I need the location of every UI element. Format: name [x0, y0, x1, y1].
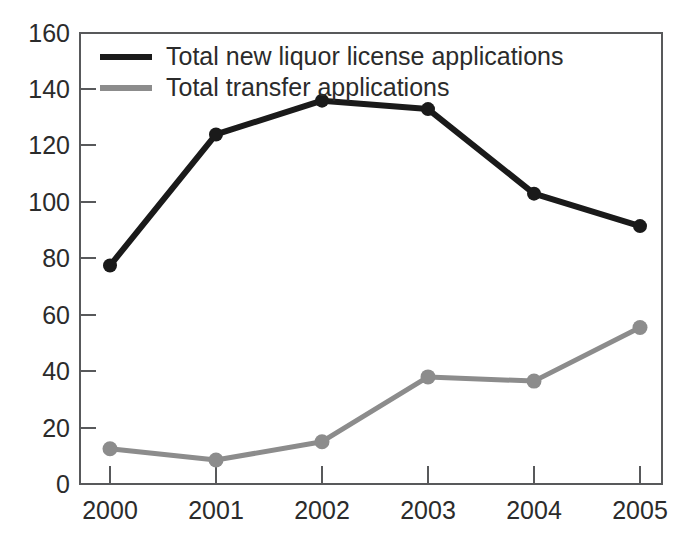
data-point	[633, 219, 647, 233]
y-axis-label-80: 80	[42, 244, 70, 272]
y-axis-label-20: 20	[42, 414, 70, 442]
series-line	[110, 328, 640, 460]
y-axis-label-100: 100	[28, 188, 70, 216]
x-axis-label-2003: 2003	[400, 496, 456, 524]
x-axis-label-2005: 2005	[612, 496, 668, 524]
x-axis-label-2002: 2002	[294, 496, 350, 524]
y-axis-label-60: 60	[42, 301, 70, 329]
plot-frame	[80, 33, 662, 484]
y-axis-label-40: 40	[42, 357, 70, 385]
x-axis-label-2000: 2000	[82, 496, 138, 524]
y-axis-ticks	[80, 33, 96, 428]
legend-label-total-new-liquor-license-applications: Total new liquor license applications	[166, 42, 563, 70]
data-point	[315, 434, 330, 449]
data-point	[527, 374, 542, 389]
data-point	[209, 127, 223, 141]
y-axis-label-120: 120	[28, 131, 70, 159]
x-axis-label-2004: 2004	[506, 496, 562, 524]
x-axis-ticks	[110, 466, 640, 484]
y-axis-label-0: 0	[56, 470, 70, 498]
series-black	[103, 94, 647, 273]
data-point	[421, 102, 435, 116]
data-point	[633, 320, 648, 335]
series-gray	[103, 320, 648, 467]
data-point	[103, 441, 118, 456]
legend-label-total-transfer-applications: Total transfer applications	[166, 73, 449, 101]
line-chart: 160 140 120 100 80 60 40 20 0 2000 2001 …	[0, 0, 695, 541]
series-layer	[103, 94, 648, 468]
y-axis-labels: 160 140 120 100 80 60 40 20 0	[28, 19, 70, 498]
data-point	[421, 369, 436, 384]
x-axis-labels: 2000 2001 2002 2003 2004 2005	[82, 496, 668, 524]
series-line	[110, 101, 640, 266]
chart-legend: Total new liquor license applications To…	[100, 42, 563, 101]
y-axis-label-160: 160	[28, 19, 70, 47]
data-point	[103, 259, 117, 273]
chart-canvas: 160 140 120 100 80 60 40 20 0 2000 2001 …	[0, 0, 695, 541]
y-axis-label-140: 140	[28, 75, 70, 103]
data-point	[209, 453, 224, 468]
x-axis-label-2001: 2001	[188, 496, 244, 524]
data-point	[527, 187, 541, 201]
